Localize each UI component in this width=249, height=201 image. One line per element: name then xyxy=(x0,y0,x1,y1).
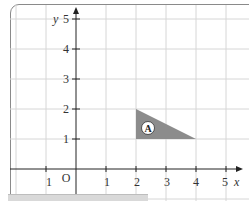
diagram-canvas: 1 O 1 2 3 4 5 x y 5 4 3 2 1 A xyxy=(0,0,249,201)
x-tick-label-1: 1 xyxy=(104,175,110,189)
x-axis-arrow-icon xyxy=(236,166,243,172)
y-tick-label-3: 3 xyxy=(63,72,69,86)
svg-text:A: A xyxy=(144,123,152,134)
x-tick-label-3: 3 xyxy=(164,175,170,189)
x-tick-label-neg1: 1 xyxy=(46,175,52,189)
y-axis xyxy=(73,7,79,201)
y-tick-label-2: 2 xyxy=(63,102,69,116)
bottom-bar xyxy=(8,194,148,201)
coordinate-plane: 1 O 1 2 3 4 5 x y 5 4 3 2 1 A xyxy=(0,0,249,201)
y-tick-label-1: 1 xyxy=(63,132,69,146)
y-axis-arrow-icon xyxy=(73,7,79,14)
x-tick-label-5: 5 xyxy=(222,175,228,189)
x-tick-label-2: 2 xyxy=(134,175,140,189)
shape-label-a: A xyxy=(142,122,155,135)
y-tick-label-4: 4 xyxy=(63,42,69,56)
origin-label: O xyxy=(62,171,71,185)
x-tick-label-4: 4 xyxy=(193,175,199,189)
x-axis-label: x xyxy=(233,175,240,189)
y-axis-label: y xyxy=(52,12,59,26)
y-tick-label-5: 5 xyxy=(63,12,69,26)
x-axis xyxy=(10,166,243,172)
